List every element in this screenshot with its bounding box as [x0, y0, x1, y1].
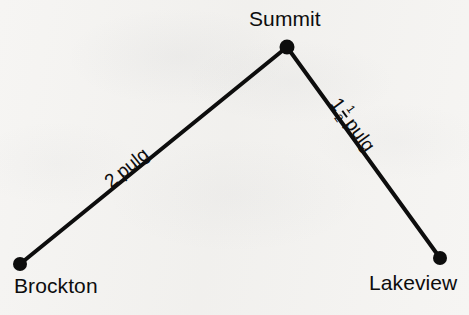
node-dot-brockton	[13, 257, 27, 271]
node-label-brockton: Brockton	[14, 275, 98, 296]
path-diagram-figure: Summit Brockton Lakeview 2 pulg 1 1 2 pu…	[0, 0, 469, 315]
node-dot-summit	[280, 40, 295, 55]
diagram-vector-layer	[0, 0, 469, 315]
segment-brockton-summit	[20, 47, 287, 264]
node-label-lakeview: Lakeview	[369, 272, 457, 293]
node-label-summit: Summit	[249, 8, 321, 29]
node-dot-lakeview	[433, 251, 447, 265]
